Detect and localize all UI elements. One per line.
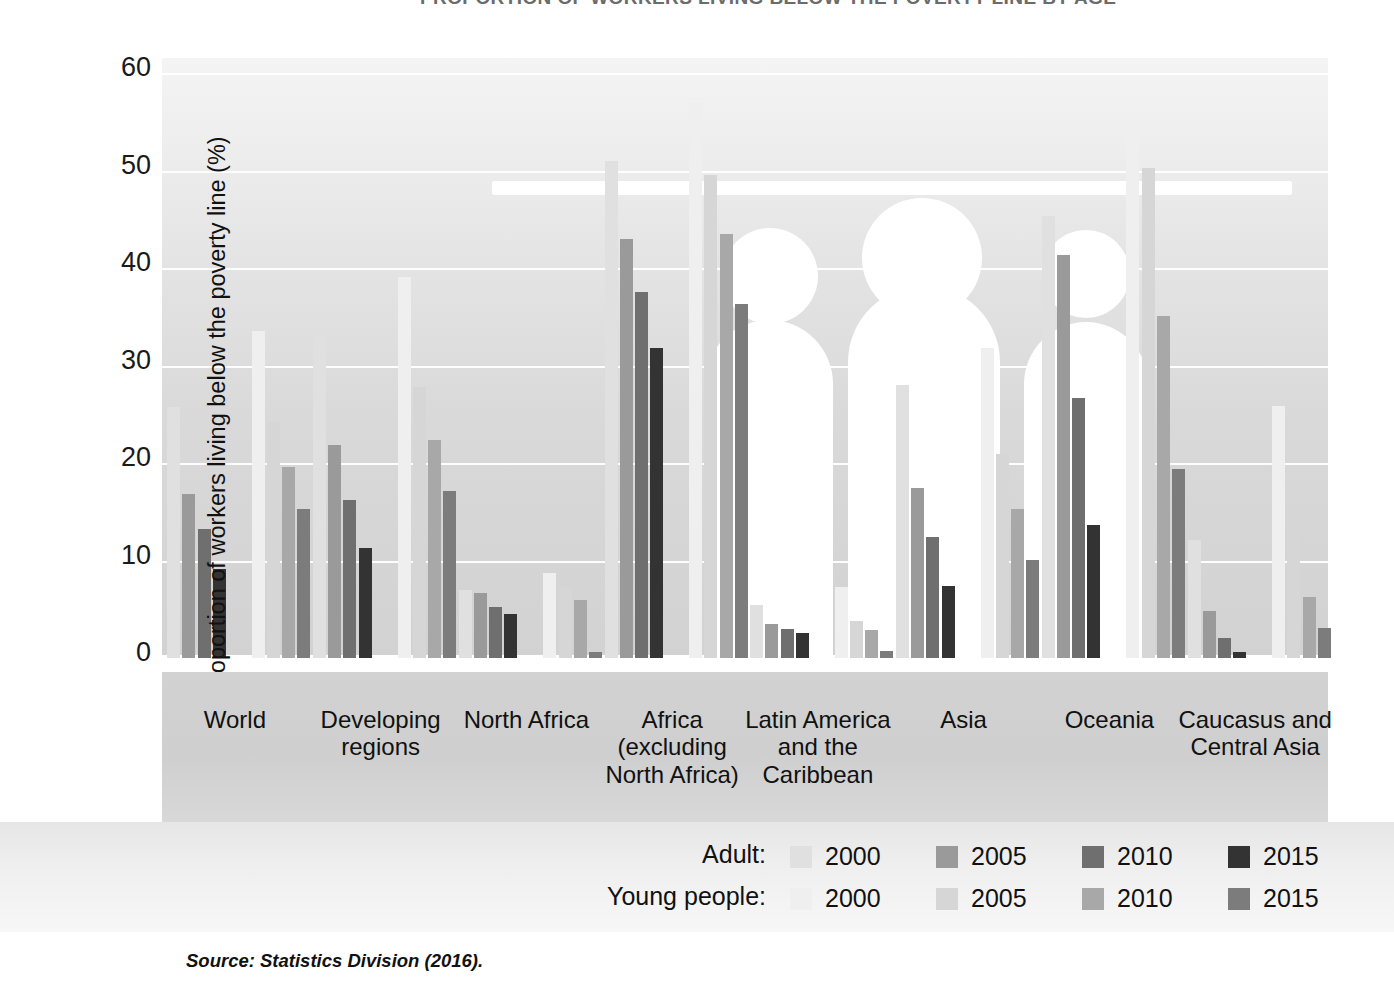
legend-item[interactable]: 2005 <box>936 842 1027 871</box>
source-note: Source: Statistics Division (2016). <box>186 950 483 972</box>
bar <box>1318 628 1331 658</box>
legend-swatch <box>790 888 812 910</box>
legend-row: Adult:2000200520102015 <box>0 838 1394 874</box>
bar <box>504 614 517 658</box>
bar <box>689 103 702 658</box>
bar <box>911 488 924 658</box>
bar <box>1057 255 1070 658</box>
bar <box>474 593 487 658</box>
y-axis-title: Proportion of workers living below the p… <box>204 107 231 727</box>
bars-layer <box>162 58 1328 658</box>
legend-label: 2000 <box>825 884 881 913</box>
bar <box>559 587 572 658</box>
bar-group <box>1182 58 1328 658</box>
bar <box>282 467 295 658</box>
bar-group <box>745 58 891 658</box>
x-axis-label: North Africa <box>442 706 612 733</box>
legend-swatch <box>936 888 958 910</box>
legend-label: 2015 <box>1263 884 1319 913</box>
bar <box>1126 130 1139 658</box>
y-tick-label-0: 0 <box>31 639 151 666</box>
bar <box>489 607 502 658</box>
bar-group <box>891 58 1037 658</box>
chart-page: PROPORTION OF WORKERS LIVING BELOW THE P… <box>0 0 1394 993</box>
legend-swatch <box>936 846 958 868</box>
legend-swatch <box>1228 846 1250 868</box>
bar <box>1042 216 1055 658</box>
bar <box>1287 505 1300 658</box>
chart-legend: Adult:2000200520102015Young people:20002… <box>0 822 1394 932</box>
legend-label: 2010 <box>1117 884 1173 913</box>
legend-label: 2015 <box>1263 842 1319 871</box>
page-title: PROPORTION OF WORKERS LIVING BELOW THE P… <box>420 0 1116 9</box>
legend-item[interactable]: 2005 <box>936 884 1027 913</box>
bar <box>835 587 848 658</box>
legend-label: 2000 <box>825 842 881 871</box>
x-axis-label: Africa (excluding North Africa) <box>587 706 757 788</box>
bar <box>182 494 195 658</box>
bar <box>1303 597 1316 658</box>
y-tick-mark-40 <box>152 268 162 270</box>
y-tick-label-10: 10 <box>31 542 151 569</box>
legend-item[interactable]: 2000 <box>790 842 881 871</box>
legend-group-title: Adult: <box>702 840 766 869</box>
legend-label: 2010 <box>1117 842 1173 871</box>
bar <box>942 586 955 658</box>
bar-group <box>1037 58 1183 658</box>
bar <box>1072 398 1085 658</box>
bar <box>343 500 356 658</box>
bar <box>796 633 809 658</box>
legend-row: Young people:2000200520102015 <box>0 880 1394 916</box>
y-tick-label-30: 30 <box>31 347 151 374</box>
x-axis-label: Latin America and the Caribbean <box>733 706 903 788</box>
bar <box>459 590 472 658</box>
bar <box>996 454 1009 658</box>
bar <box>1011 509 1024 658</box>
y-tick-mark-30 <box>152 366 162 368</box>
chart-title-strip: PROPORTION OF WORKERS LIVING BELOW THE P… <box>0 0 1394 9</box>
x-axis-label: Oceania <box>1025 706 1195 733</box>
y-tick-mark-20 <box>152 463 162 465</box>
legend-item[interactable]: 2000 <box>790 884 881 913</box>
bar <box>750 605 763 658</box>
bar <box>650 348 663 658</box>
x-axis-labels: WorldDeveloping regionsNorth AfricaAfric… <box>162 672 1328 822</box>
bar <box>926 537 939 658</box>
bar <box>605 161 618 658</box>
y-tick-mark-10 <box>152 561 162 563</box>
legend-item[interactable]: 2015 <box>1228 842 1319 871</box>
bar-group <box>162 58 308 658</box>
bar <box>1203 611 1216 658</box>
bar <box>398 277 411 658</box>
bar <box>1218 638 1231 658</box>
legend-swatch <box>1228 888 1250 910</box>
bar <box>252 331 265 658</box>
legend-item[interactable]: 2015 <box>1228 884 1319 913</box>
legend-group-title: Young people: <box>607 882 766 911</box>
bar <box>781 629 794 658</box>
bar-group <box>454 58 600 658</box>
y-tick-label-60: 60 <box>31 54 151 81</box>
bar <box>865 630 878 658</box>
bar <box>428 440 441 658</box>
bar <box>896 385 909 658</box>
bar <box>1142 168 1155 658</box>
bar <box>328 445 341 658</box>
bar <box>1087 525 1100 658</box>
bar <box>1157 316 1170 658</box>
bar <box>765 624 778 658</box>
bar <box>1233 652 1246 658</box>
plot-area: Proportion of workers living below the p… <box>162 58 1328 658</box>
legend-swatch <box>1082 888 1104 910</box>
bar <box>543 573 556 658</box>
bar <box>620 239 633 658</box>
x-axis-label: Developing regions <box>296 706 466 761</box>
x-axis-label: Asia <box>879 706 1049 733</box>
bar <box>720 234 733 658</box>
bar <box>1272 406 1285 658</box>
bar-group <box>308 58 454 658</box>
legend-item[interactable]: 2010 <box>1082 884 1173 913</box>
bar-group <box>599 58 745 658</box>
legend-item[interactable]: 2010 <box>1082 842 1173 871</box>
bar <box>1188 540 1201 658</box>
